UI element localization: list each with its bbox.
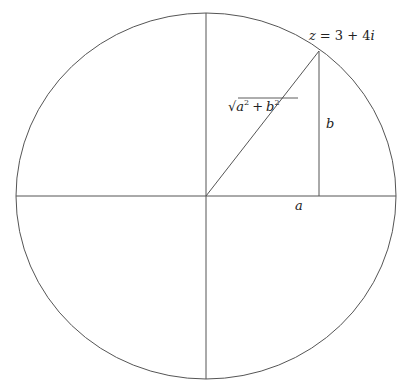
horizontal-leg-label: a [295, 198, 303, 213]
modulus-line [206, 51, 319, 196]
vertical-leg-label: b [326, 116, 334, 131]
complex-plane-diagram: z=3 + 4i √a2+b2 b a [0, 0, 404, 391]
hypotenuse-label: √a2+b2 [228, 98, 279, 114]
point-label: z=3 + 4i [308, 28, 375, 43]
